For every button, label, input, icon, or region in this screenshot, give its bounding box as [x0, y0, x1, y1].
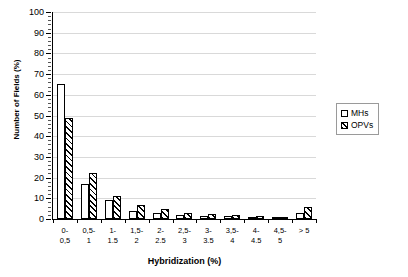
x-tick-label: 2- 2.5: [149, 226, 173, 245]
y-tick-minor-mark: [48, 91, 51, 92]
y-tick-mark: [46, 53, 51, 54]
bar-group: [125, 12, 149, 219]
x-tick-mark: [53, 219, 54, 223]
y-tick-label: 80: [34, 49, 44, 58]
y-tick-label: 90: [34, 28, 44, 37]
x-tick-label: 0- 0,5: [53, 226, 77, 245]
y-tick-minor-mark: [48, 215, 51, 216]
bar-group: [292, 12, 316, 219]
y-tick-mark: [46, 116, 51, 117]
y-tick-minor-mark: [48, 70, 51, 71]
y-tick-mark: [46, 74, 51, 75]
y-tick-label: 70: [34, 70, 44, 79]
x-axis-labels: 0- 0,50,5- 11- 1.51,5- 22- 2.52,5- 33- 3…: [53, 226, 316, 245]
bar-opvs: [161, 209, 169, 219]
x-tick-label: 0,5- 1: [77, 226, 101, 245]
y-tick-minor-mark: [48, 37, 51, 38]
x-tick-mark: [149, 219, 150, 223]
y-tick-minor-mark: [48, 62, 51, 63]
y-tick-label: 0: [39, 215, 44, 224]
x-axis-title: Hybridization (%): [53, 256, 316, 266]
x-tick-label: 1,5- 2: [125, 226, 149, 245]
bar-opvs: [89, 173, 97, 219]
y-tick-minor-mark: [48, 207, 51, 208]
y-tick-minor-mark: [48, 190, 51, 191]
y-tick-mark: [46, 95, 51, 96]
bar-mhs: [105, 200, 113, 219]
y-tick-minor-mark: [48, 186, 51, 187]
y-tick-label: 10: [34, 194, 44, 203]
y-tick-minor-mark: [48, 29, 51, 30]
x-tick-mark: [173, 219, 174, 223]
y-tick-minor-mark: [48, 41, 51, 42]
x-tick-mark: [77, 219, 78, 223]
y-tick-minor-mark: [48, 82, 51, 83]
y-tick-mark: [46, 219, 51, 220]
x-tick-label: 3,5- 4: [220, 226, 244, 245]
x-tick-mark: [220, 219, 221, 223]
y-tick-minor-mark: [48, 202, 51, 203]
y-tick-minor-mark: [48, 87, 51, 88]
x-tick-label: 4- 4.5: [244, 226, 268, 245]
y-tick-minor-mark: [48, 24, 51, 25]
x-tick-mark: [101, 219, 102, 223]
y-tick-minor-mark: [48, 49, 51, 50]
y-tick-mark: [46, 33, 51, 34]
y-tick-minor-mark: [48, 16, 51, 17]
x-tick-label: 1- 1.5: [101, 226, 125, 245]
y-tick-mark: [46, 136, 51, 137]
legend-label-opvs: OPVs: [351, 121, 373, 130]
y-tick-minor-mark: [48, 140, 51, 141]
y-tick-minor-mark: [48, 107, 51, 108]
bar-groups: [53, 12, 316, 219]
y-tick-mark: [46, 12, 51, 13]
y-tick-minor-mark: [48, 173, 51, 174]
y-tick-minor-mark: [48, 211, 51, 212]
bar-group: [173, 12, 197, 219]
y-tick-mark: [46, 178, 51, 179]
x-tick-mark: [316, 219, 317, 223]
y-tick-minor-mark: [48, 66, 51, 67]
y-tick-minor-mark: [48, 103, 51, 104]
y-axis-ticks: 1009080706050403020100: [0, 12, 53, 219]
bar-opvs: [113, 196, 121, 219]
x-tick-label: 4,5- 5: [268, 226, 292, 245]
bar-group: [220, 12, 244, 219]
bar-mhs: [57, 84, 65, 219]
bar-chart: Number of Fields (%) 1009080706050403020…: [0, 0, 408, 277]
y-tick-label: 60: [34, 90, 44, 99]
x-tick-label: 3- 3.5: [196, 226, 220, 245]
y-tick-minor-mark: [48, 99, 51, 100]
y-tick-mark: [46, 198, 51, 199]
y-tick-minor-mark: [48, 45, 51, 46]
bar-group: [196, 12, 220, 219]
y-tick-label: 50: [34, 111, 44, 120]
y-tick-minor-mark: [48, 182, 51, 183]
bar-opvs: [304, 207, 312, 219]
y-tick-label: 40: [34, 132, 44, 141]
legend: MHs OPVs: [336, 103, 379, 135]
y-tick-minor-mark: [48, 153, 51, 154]
x-tick-mark: [196, 219, 197, 223]
y-tick-minor-mark: [48, 132, 51, 133]
y-tick-minor-mark: [48, 58, 51, 59]
y-tick-mark: [46, 157, 51, 158]
plot-area: [53, 12, 316, 219]
x-axis-ticks: [53, 219, 316, 224]
bar-group: [77, 12, 101, 219]
bar-group: [53, 12, 77, 219]
legend-label-mhs: MHs: [351, 109, 368, 118]
y-tick-minor-mark: [48, 149, 51, 150]
bar-mhs: [81, 184, 89, 219]
bar-group: [149, 12, 173, 219]
legend-item-opvs: OPVs: [341, 119, 373, 131]
y-tick-label: 100: [29, 8, 44, 17]
y-tick-minor-mark: [48, 20, 51, 21]
y-tick-minor-mark: [48, 144, 51, 145]
y-tick-label: 30: [34, 152, 44, 161]
y-tick-minor-mark: [48, 78, 51, 79]
y-tick-minor-mark: [48, 124, 51, 125]
bar-group: [244, 12, 268, 219]
bar-group: [101, 12, 125, 219]
legend-item-mhs: MHs: [341, 107, 373, 119]
